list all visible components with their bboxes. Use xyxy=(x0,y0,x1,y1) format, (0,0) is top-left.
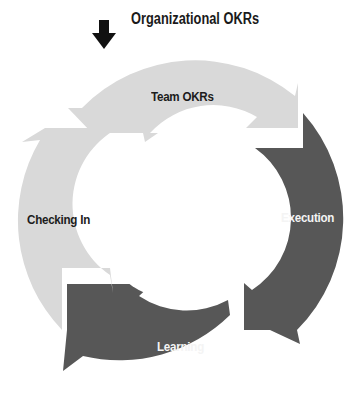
stage-label-learning: Learning xyxy=(157,339,204,354)
segment-learning xyxy=(63,284,230,371)
stage-label-execution: Execution xyxy=(281,210,334,225)
stage-label-team-okrs: Team OKRs xyxy=(151,89,214,104)
input-label: Organizational OKRs xyxy=(131,10,259,28)
down-arrow-icon xyxy=(92,20,116,49)
stage-label-checking-in: Checking In xyxy=(27,212,90,227)
okr-cycle-diagram: Organizational OKRs Team OKRs Execution … xyxy=(0,0,362,412)
